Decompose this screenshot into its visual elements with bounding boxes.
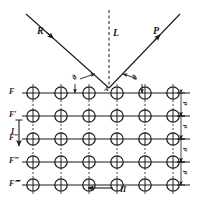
atom-4-2 — [83, 179, 95, 191]
atom-3-1 — [55, 156, 67, 168]
reflected-ray-line — [109, 14, 180, 88]
atom-1-2 — [83, 110, 95, 122]
atom-2-4 — [139, 133, 151, 145]
rays-layer — [26, 10, 180, 88]
normal-line-label: L — [113, 28, 119, 38]
atom-2-3 — [111, 133, 123, 145]
reflected-ray-label: P — [153, 26, 159, 36]
incident-ray-label: R — [37, 26, 44, 36]
atom-0-4 — [139, 87, 151, 99]
atom-1-4 — [139, 110, 151, 122]
spacing-d-3: d — [182, 147, 189, 151]
row-label-f1: F′ — [9, 111, 17, 119]
atom-0-2 — [83, 87, 95, 99]
spacing-d-1: d — [182, 101, 189, 105]
atom-1-0 — [27, 110, 39, 122]
spacing-d-2: d — [182, 124, 189, 128]
atom-2-2 — [83, 133, 95, 145]
atom-4-0 — [27, 179, 39, 191]
incident-ray-arrow — [47, 33, 53, 38]
dimensions-layer — [16, 74, 186, 188]
spacing-d-4: d — [182, 170, 189, 174]
figure-canvas — [0, 0, 197, 200]
row-label-f3: F‴ — [9, 157, 19, 165]
atom-3-2 — [83, 156, 95, 168]
row-label-f0: F — [9, 88, 14, 96]
atom-3-4 — [139, 156, 151, 168]
atom-2-1 — [55, 133, 67, 145]
incidence-angle-leader — [80, 74, 95, 79]
direction-i-label: I — [11, 128, 14, 136]
crystal-lattice-diffraction-figure: FF′F″F‴F⁗ddddRLPAϑϑIII — [0, 0, 197, 200]
atom-0-3 — [111, 87, 123, 99]
atom-3-0 — [27, 156, 39, 168]
lattice-layer — [22, 84, 190, 194]
atom-2-0 — [27, 133, 39, 145]
atom-4-4 — [139, 179, 151, 191]
row-label-f4: F⁗ — [9, 180, 19, 188]
atom-1-1 — [55, 110, 67, 122]
atom-1-3 — [111, 110, 123, 122]
atom-3-3 — [111, 156, 123, 168]
point-of-incidence-label: A — [104, 86, 109, 93]
atom-0-1 — [55, 87, 67, 99]
atom-4-1 — [55, 179, 67, 191]
direction-ii-label: II — [120, 186, 126, 194]
atom-0-0 — [27, 87, 39, 99]
